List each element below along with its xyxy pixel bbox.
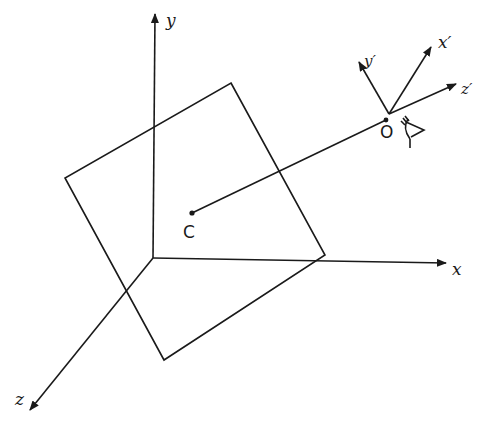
center-point: [189, 210, 194, 215]
x-axis: [153, 258, 446, 263]
view-line: [192, 120, 386, 213]
eye-icon: [401, 116, 424, 148]
coordinate-diagram: y x z y′ x′ z′ C O: [0, 0, 492, 425]
y-axis: [153, 14, 155, 258]
center-label: C: [183, 222, 195, 242]
x-prime-label: x′: [438, 32, 452, 52]
z-axis-label: z: [14, 389, 25, 409]
x-axis-label: x: [452, 259, 462, 279]
y-prime-label: y′: [363, 52, 376, 70]
z-prime-label: z′: [460, 80, 473, 98]
eye-label: O: [380, 122, 393, 142]
z-axis: [30, 258, 153, 410]
y-axis-label: y: [165, 10, 176, 30]
